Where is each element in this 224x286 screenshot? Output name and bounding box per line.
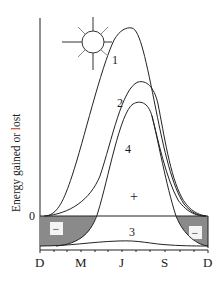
sun-icon	[62, 17, 112, 70]
plus-label: +	[130, 189, 138, 204]
y-axis-label: Energy gained or lost	[10, 52, 26, 212]
curve-1	[46, 28, 206, 216]
curve-4-label: 4	[125, 142, 131, 156]
zero-label: 0	[29, 209, 35, 223]
month-label-s: S	[161, 255, 168, 270]
loss-region-left	[40, 216, 96, 246]
minus-left-label: −	[53, 222, 60, 236]
energy-diagram: 1 2 4 + 3 − − 0 D M J S D Energy gained …	[0, 0, 224, 286]
month-label-d-start: D	[35, 255, 44, 270]
minus-right-label: −	[192, 226, 199, 240]
curve-1-label: 1	[112, 53, 118, 67]
curve-2-label: 2	[117, 96, 123, 110]
month-label-j: J	[119, 255, 124, 270]
month-label-d-end: D	[203, 255, 212, 270]
month-label-m: M	[75, 255, 87, 270]
y-axis-label-main: Energy gained or	[10, 130, 22, 212]
curve-3-label: 3	[129, 225, 135, 239]
y-axis-label-lost: lost	[10, 114, 22, 131]
diagram-canvas: 1 2 4 + 3 − − 0 D M J S D	[0, 0, 224, 286]
